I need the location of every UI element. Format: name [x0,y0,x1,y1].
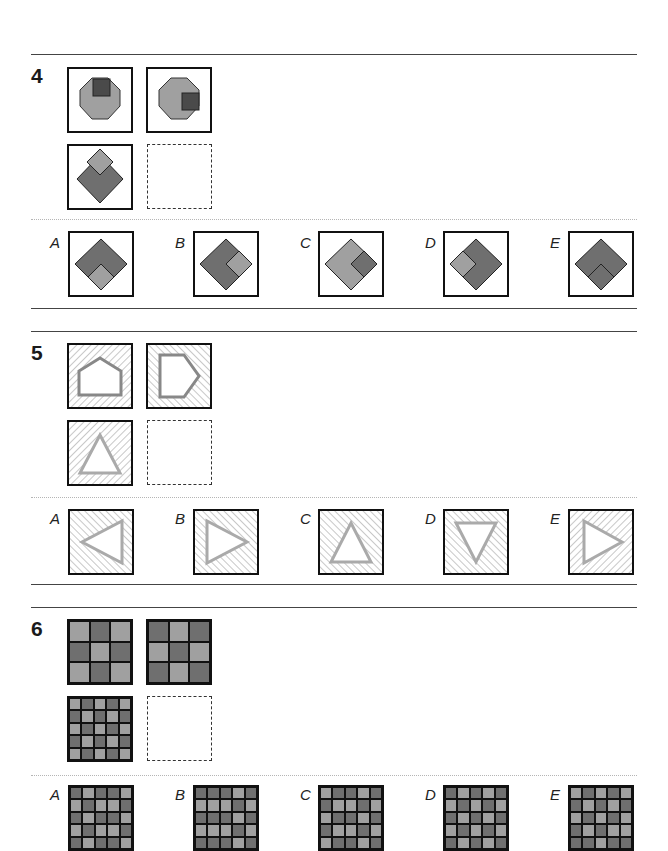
q6-figure-3 [67,696,133,762]
dark-cell [570,837,582,849]
q4-option-e[interactable] [568,231,634,297]
q6-option-b[interactable] [193,785,259,851]
dark-cell [595,799,607,811]
q5-option-c[interactable] [318,509,384,575]
dark-cell [106,748,118,760]
dark-cell [620,837,632,849]
dark-cell [357,799,369,811]
dotted-separator [31,775,637,776]
light-cell [120,837,132,849]
light-cell [482,812,494,824]
light-cell [110,621,131,642]
diamond-right-light-icon [195,233,257,295]
light-cell [120,787,132,799]
q5-answer-slot[interactable] [147,420,212,485]
question-number: 5 [31,341,43,365]
q5-option-e[interactable] [568,509,634,575]
light-cell [570,787,582,799]
triangle-down-icon [445,511,507,573]
dark-cell [107,787,119,799]
option-label: B [175,786,185,803]
light-cell [470,824,482,836]
light-cell [357,837,369,849]
light-cell [445,824,457,836]
dark-cell [482,799,494,811]
diamond-left-light-icon [445,233,507,295]
light-cell [107,824,119,836]
dark-cell [495,837,507,849]
q6-answer-slot[interactable] [147,696,212,761]
dotted-separator [31,219,637,220]
triangle-up-icon [320,511,382,573]
light-cell [370,799,382,811]
dark-cell [607,787,619,799]
q6-option-c[interactable] [318,785,384,851]
dark-cell [245,812,257,824]
dark-cell [332,812,344,824]
option-label: A [50,786,60,803]
option-label: B [175,234,185,251]
light-cell [90,642,111,663]
dark-cell [189,662,210,683]
dark-cell [207,787,219,799]
dotted-separator [31,497,637,498]
option-label: B [175,510,185,527]
light-cell [457,787,469,799]
dark-cell [620,799,632,811]
q4-option-b[interactable] [193,231,259,297]
light-cell [345,824,357,836]
light-cell [620,787,632,799]
light-cell [320,812,332,824]
light-cell [495,824,507,836]
section-divider [31,607,637,608]
dark-cell [81,723,93,735]
dark-cell [81,748,93,760]
light-cell [620,812,632,824]
q5-option-a[interactable] [68,509,134,575]
dark-cell [70,837,82,849]
q5-option-b[interactable] [193,509,259,575]
dark-cell [220,837,232,849]
dark-cell [470,812,482,824]
light-cell [332,799,344,811]
q4-option-c[interactable] [318,231,384,297]
light-cell [607,824,619,836]
dark-cell [607,837,619,849]
q6-option-d[interactable] [443,785,509,851]
dark-cell [345,812,357,824]
q4-option-d[interactable] [443,231,509,297]
q4-option-a[interactable] [68,231,134,297]
light-cell [189,642,210,663]
dark-cell [169,642,190,663]
q4-answer-slot[interactable] [147,144,212,209]
section-divider [31,308,637,309]
q6-option-a[interactable] [68,785,134,851]
light-cell [570,812,582,824]
light-cell [94,723,106,735]
light-cell [232,787,244,799]
section-divider [31,54,637,55]
light-cell [69,662,90,683]
q6-option-e[interactable] [568,785,634,851]
triangle-up-icon [69,422,131,484]
dark-cell [195,837,207,849]
light-cell [232,812,244,824]
checker-grid-3x3 [69,621,131,683]
octagon-square-right-icon [148,69,210,131]
light-cell [345,799,357,811]
dark-cell [95,837,107,849]
q5-option-d[interactable] [443,509,509,575]
dark-cell [107,812,119,824]
light-cell [70,824,82,836]
dark-cell [69,735,81,747]
light-cell [470,799,482,811]
dark-cell [570,824,582,836]
light-cell [582,799,594,811]
checker-grid-5x5 [69,698,131,760]
light-cell [69,621,90,642]
dark-cell [320,824,332,836]
dark-cell [582,812,594,824]
dark-cell [69,642,90,663]
dark-cell [120,824,132,836]
dark-cell [106,723,118,735]
